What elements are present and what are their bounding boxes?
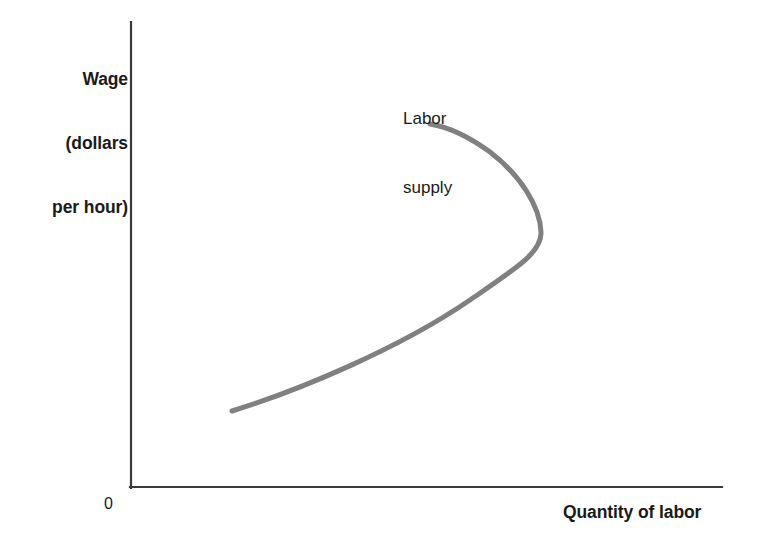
y-axis-label-line-3: per hour) [52,197,128,218]
curve-label-line-1: Labor [403,108,452,131]
labor-supply-curve [232,124,541,411]
labor-supply-curve-label: Labor supply [403,62,452,246]
y-axis-label: Wage (dollars per hour) [52,26,128,261]
y-axis-label-line-2: (dollars [52,133,128,154]
chart-figure: Wage (dollars per hour) Quantity of labo… [0,0,759,538]
y-axis-label-line-1: Wage [52,69,128,90]
x-axis-label: Quantity of labor [563,502,701,523]
curve-label-line-2: supply [403,177,452,200]
origin-label: 0 [104,494,113,514]
